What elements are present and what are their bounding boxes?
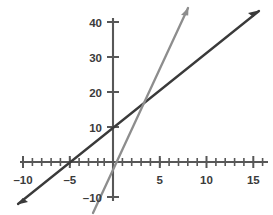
series-line-1: [18, 11, 260, 205]
y-tick-label-40: 40: [89, 17, 102, 29]
y-axis-tick-labels: 40 30 20 10 –10: [83, 17, 102, 204]
x-tick-label--5: –5: [63, 174, 76, 186]
series-2-path: [93, 8, 188, 213]
series-1-path: [18, 11, 259, 204]
y-tick-label--10: –10: [83, 192, 102, 204]
series-2-arrow-end: [181, 8, 189, 16]
y-tick-label-10: 10: [89, 122, 102, 134]
series-1-arrow-start: [18, 198, 29, 205]
x-tick-label-15: 15: [247, 174, 260, 186]
y-tick-label-20: 20: [89, 87, 102, 99]
x-tick-label-5: 5: [157, 174, 164, 186]
series-line-2: [93, 8, 189, 214]
x-tick-label-10: 10: [200, 174, 213, 186]
y-tick-label-30: 30: [89, 52, 102, 64]
x-tick-label--10: –10: [13, 174, 32, 186]
x-axis-tick-labels: –10 –5 5 10 15: [13, 174, 260, 186]
cartesian-plot: –10 –5 5 10 15 40 30 20 10 –10: [0, 0, 273, 215]
line-graph-figure: –10 –5 5 10 15 40 30 20 10 –10: [0, 0, 273, 215]
